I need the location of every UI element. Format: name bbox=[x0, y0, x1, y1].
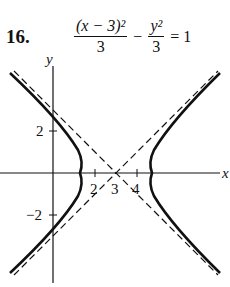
x-tick-label-3: 3 bbox=[111, 181, 119, 197]
x-tick-label-4: 4 bbox=[132, 181, 140, 197]
y-tick-label-2: 2 bbox=[36, 123, 44, 139]
x-axis-label: x bbox=[221, 165, 229, 181]
hyperbola-graph: y x 2 3 4 2 −2 bbox=[0, 0, 230, 287]
y-tick-label-neg2: −2 bbox=[26, 207, 42, 223]
y-axis-label: y bbox=[44, 51, 53, 67]
